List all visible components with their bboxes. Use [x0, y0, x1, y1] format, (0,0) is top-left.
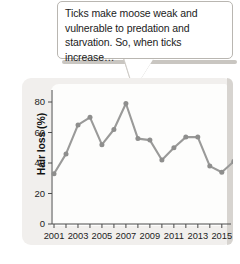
data-point — [111, 127, 116, 132]
data-point — [159, 158, 164, 163]
data-point — [88, 115, 93, 120]
data-point — [195, 135, 200, 140]
data-point — [147, 138, 152, 143]
y-tick-label: 80 — [34, 96, 45, 107]
y-tick-label: 60 — [34, 127, 45, 138]
data-point — [64, 151, 69, 156]
y-tick-label: 40 — [34, 157, 45, 168]
figure-container: Ticks make moose weak and vulnerable to … — [0, 0, 240, 264]
y-tick-label: 20 — [34, 188, 45, 199]
x-tick-label: 2013 — [187, 231, 208, 241]
callout-bubble: Ticks make moose weak and vulnerable to … — [57, 1, 233, 59]
x-tick-label: 2009 — [140, 231, 161, 241]
y-tick-label: 0 — [40, 218, 45, 229]
x-tick-label: 2001 — [44, 231, 65, 241]
x-tick-label: 2015 — [211, 231, 232, 241]
x-tick-label: 2007 — [116, 231, 137, 241]
data-point — [76, 122, 81, 127]
data-point — [219, 170, 224, 175]
data-point — [171, 145, 176, 150]
x-tick-label: 2011 — [164, 231, 184, 241]
data-point — [52, 171, 57, 176]
callout-text: Ticks make moose weak and vulnerable to … — [65, 6, 229, 64]
data-point — [183, 135, 188, 140]
data-point — [99, 142, 104, 147]
data-point — [123, 101, 128, 106]
hair-loss-line-chart: 0204060802001200320052007200920112013201… — [22, 78, 233, 245]
x-tick-label: 2003 — [68, 231, 89, 241]
hair-loss-series-line — [54, 104, 233, 174]
data-point — [135, 136, 140, 141]
x-tick-label: 2005 — [92, 231, 113, 241]
chart-panel: Hair loss (%) 02040608020012003200520072… — [22, 78, 233, 245]
data-point — [207, 164, 212, 169]
